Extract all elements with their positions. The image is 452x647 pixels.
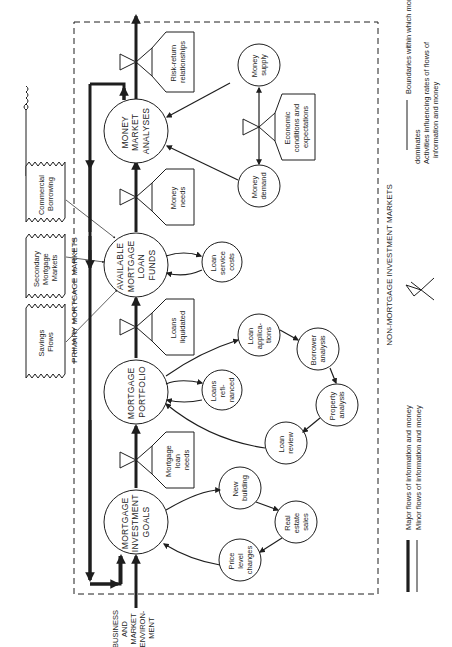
non-mortgage-markets-label: NON-MORTGAGE INVESTMENT MARKETS [385, 184, 394, 346]
legend-major-label: Major flows of information and money [404, 405, 413, 530]
legend-activity-label-2: information and money [431, 81, 440, 158]
label-money-supply: Money supply [250, 53, 268, 78]
source-label-commercial: Commercial Borrowing [37, 173, 55, 215]
label-money-demand: Money demand [250, 172, 268, 199]
source-label-secondary: Secondary Mortgage Markets [32, 249, 59, 287]
legend-activity-label: Activities influencing rates of flows of [422, 41, 431, 164]
legend-boundary-label: Boundaries within which mortgage financi… [404, 0, 413, 94]
label-borrower-analysis: Borrower analysis [309, 333, 327, 366]
node-label-portfolio: MORTGAGE PORTFOLIO [126, 365, 147, 420]
label-property-analysis: Property analysis [328, 390, 346, 420]
rate-label-loans-liquidated: Loans liquidated [169, 311, 187, 343]
rate-label-money-needs: Money needs [169, 185, 187, 210]
environment-label: BUSINESS AND MARKET ENVIRON- MENT [111, 608, 156, 647]
node-label-money-market: MONEY MARKET ANALYSES [120, 108, 151, 155]
rate-label-risk-return: Risk-return relationships [169, 41, 187, 83]
mortgage-flow-diagram: MORTGAGE INVESTMENT GOALS MORTGAGE PORTF… [0, 0, 452, 647]
valve-icon [406, 278, 434, 300]
primary-mortgage-markets-label: PRIMARY MORTGAGE MARKETS [70, 237, 79, 363]
legend-minor-label: Minor flows of information and money [414, 405, 423, 530]
legend-boundary-label-2: dominates [413, 129, 422, 164]
label-loan-review: Loan review [277, 432, 295, 454]
label-real-estate-sales: Real estate sales [283, 511, 310, 534]
